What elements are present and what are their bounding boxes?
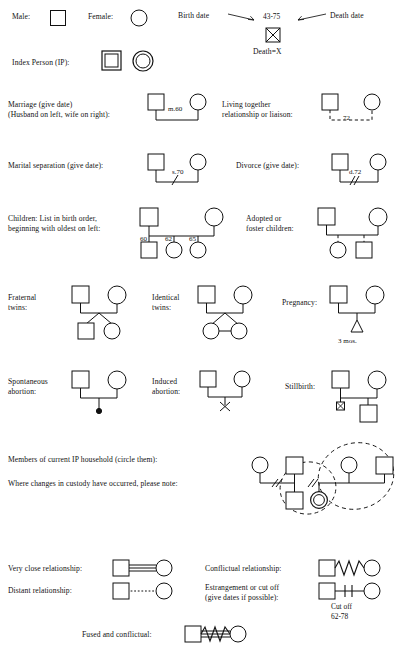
death-date-label: Death date [330, 11, 364, 21]
custody-label: Where changes in custody have occurred, … [8, 479, 178, 489]
living-together-label-line2: relationship or liaison: [222, 110, 293, 120]
very-close-relationship-symbol [112, 557, 174, 579]
living-together-symbol [320, 92, 386, 126]
index-person-label: Index Person (IP): [12, 58, 69, 68]
induced-abortion-label-line2: abortion: [152, 387, 180, 397]
index-person-male-symbol [100, 49, 124, 73]
adopted-children-symbol [316, 206, 392, 258]
induced-abortion-label-line1: Induced [152, 377, 177, 387]
fused-conflictual-label: Fused and conflictual: [82, 630, 152, 640]
marriage-date-value: m.60 [168, 105, 182, 113]
pregnancy-label: Pregnancy: [282, 298, 317, 308]
separation-date-value: s.70 [172, 168, 183, 176]
fraternal-twins-label-line1: Fraternal [8, 293, 36, 303]
children-label-line2: beginning with oldest on left: [8, 224, 100, 234]
distant-relationship-symbol [112, 580, 174, 602]
male-square-symbol [48, 8, 68, 28]
spontaneous-abortion-symbol [70, 369, 130, 415]
cut-off-label-line1: Cut off [331, 603, 352, 611]
conflictual-label: Conflictual relationship: [205, 564, 282, 574]
fraternal-twins-symbol [70, 284, 132, 340]
living-together-label-line1: Living together [222, 100, 271, 110]
divorce-label: Divorce (give date): [236, 161, 299, 171]
fraternal-twins-label-line2: twins: [8, 303, 27, 313]
marriage-label-line2: (Husband on left, wife on right): [8, 110, 110, 120]
child-year-2: 62 [165, 235, 172, 243]
death-crossed-square-symbol [264, 26, 282, 44]
cut-off-dates: 62-78 [331, 613, 348, 621]
death-date-arrow-icon [292, 12, 326, 24]
divorce-date-value: d.72 [349, 168, 361, 176]
very-close-label: Very close relationship: [8, 564, 82, 574]
index-person-female-symbol [130, 48, 156, 74]
children-symbol [138, 206, 230, 258]
estrangement-cutoff-symbol [318, 580, 384, 602]
living-together-date-value: 72 [343, 114, 350, 122]
estrangement-label-line1: Estrangement or cut off [205, 583, 279, 593]
children-label-line1: Children: List in birth order, [8, 214, 97, 224]
household-genogram-symbol [248, 434, 402, 526]
child-year-3: 65 [189, 235, 196, 243]
separation-label: Marital separation (give date): [8, 161, 103, 171]
birth-date-label: Birth date [178, 11, 209, 21]
spontaneous-abortion-label-line2: abortion: [8, 387, 36, 397]
stillbirth-label: Stillbirth: [285, 382, 315, 392]
male-label: Male: [12, 12, 30, 22]
estrangement-label-line2: (give dates if possible): [205, 593, 279, 603]
child-year-1: 60 [140, 235, 147, 243]
identical-twins-label-line1: Identical [152, 293, 179, 303]
marriage-label-line1: Marriage (give date) [8, 100, 72, 110]
fused-and-conflictual-symbol [184, 623, 250, 645]
induced-abortion-symbol [198, 369, 258, 415]
life-span-value: 43-75 [263, 13, 280, 21]
adopted-label-line2: foster children: [246, 224, 294, 234]
pregnancy-symbol [328, 284, 390, 334]
identical-twins-symbol [196, 284, 258, 340]
female-circle-symbol [128, 7, 150, 29]
distant-label: Distant relationship: [8, 586, 72, 596]
conflictual-relationship-symbol [318, 557, 384, 579]
birth-date-arrow-icon [228, 12, 260, 24]
spontaneous-abortion-label-line1: Spontaneous [8, 377, 48, 387]
identical-twins-label-line2: twins: [152, 303, 171, 313]
female-label: Female: [88, 12, 113, 22]
adopted-label-line1: Adopted or [246, 214, 281, 224]
death-equals-label: Death=X [253, 47, 282, 57]
stillbirth-symbol [330, 369, 392, 423]
pregnancy-months-value: 3 mos. [338, 337, 357, 345]
household-label: Members of current IP household (circle … [8, 455, 157, 465]
